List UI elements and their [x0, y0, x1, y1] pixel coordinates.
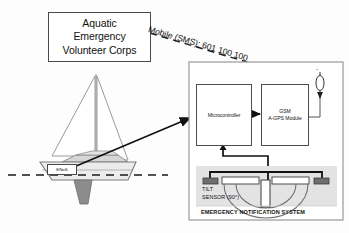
gsm-agps-module-label: GSM A-GPS Module	[268, 108, 301, 122]
boat-mainsail	[52, 76, 95, 156]
sensor-electrode-right	[272, 177, 309, 184]
organisation-label: Aquatic Emergency Volunteer Corps	[63, 17, 137, 56]
microcontroller-block: Microcontroller	[196, 84, 252, 146]
hull-nameplate: ENoS	[47, 164, 77, 175]
antenna-glyph-icon: ⌁	[316, 68, 318, 73]
boat-jib	[97, 76, 128, 160]
antenna-icon	[316, 76, 324, 91]
sensor-pendulum	[261, 180, 270, 207]
gsm-agps-module-block: GSM A-GPS Module	[261, 84, 309, 146]
hull-nameplate-label: ENoS	[56, 167, 68, 172]
microcontroller-label: Microcontroller	[208, 112, 241, 118]
organisation-box: Aquatic Emergency Volunteer Corps	[48, 12, 151, 62]
tilt-sensor-label: TILT SENSOR (90°)	[202, 186, 239, 201]
sensor-electrode-left	[222, 177, 259, 184]
diagram-canvas: Aquatic Emergency Volunteer Corps Mobile…	[0, 0, 349, 233]
panel-caption: EMERGENCY NOTIFICATION SYSTEM	[201, 209, 305, 215]
sensor-pad-right	[314, 178, 329, 184]
boat-keel	[74, 180, 92, 204]
sensor-pad-left	[203, 178, 218, 184]
